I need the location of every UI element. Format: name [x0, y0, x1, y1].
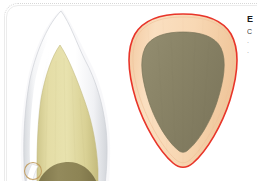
tooth-sagittal-section — [4, 6, 119, 181]
caption-line-3: · — [247, 48, 257, 57]
caption-block: E C · · — [247, 13, 257, 57]
figure-root: E C · · — [0, 0, 257, 181]
caption-line-2: · — [247, 38, 257, 47]
caption-line-1: C — [247, 27, 257, 37]
caption-title: E — [247, 13, 257, 26]
tooth-axial-section — [123, 8, 243, 178]
